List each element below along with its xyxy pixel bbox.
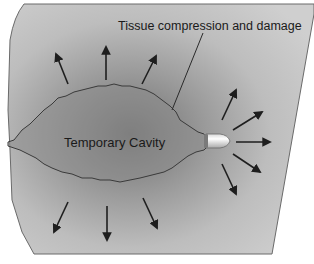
- temporary-cavity-diagram: Tissue compression and damage Temporary …: [0, 0, 314, 264]
- tissue-compression-label: Tissue compression and damage: [118, 19, 302, 33]
- bullet-icon: [204, 134, 230, 148]
- temporary-cavity-label: Temporary Cavity: [64, 135, 166, 150]
